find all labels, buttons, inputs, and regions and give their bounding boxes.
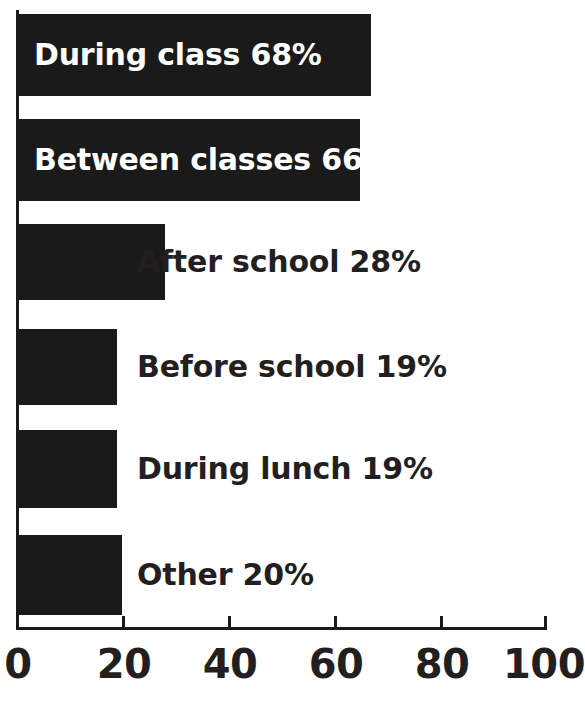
x-axis-tick-label-100: 100 (503, 644, 585, 684)
x-axis-tick-label-60: 60 (309, 644, 364, 684)
x-axis-tick-0 (16, 616, 19, 628)
bar-label-before-school: Before school 19% (137, 352, 447, 382)
x-axis-tick-label-20: 20 (97, 644, 152, 684)
bar-label-during-class: During class 68% (19, 40, 322, 70)
bar-label-after-school: After school 28% (137, 247, 421, 277)
bar-before-school (19, 329, 117, 405)
bar-label-other: Other 20% (137, 560, 314, 590)
x-axis-tick-80 (440, 616, 443, 628)
x-axis-tick-100 (544, 616, 547, 628)
plot-area: During class 68% Between classes 66% Aft… (0, 0, 570, 630)
bar-during-lunch (19, 430, 117, 508)
x-axis-tick-20 (122, 616, 125, 628)
bar-label-during-lunch: During lunch 19% (137, 454, 433, 484)
x-axis-tick-label-0: 0 (4, 644, 31, 684)
x-axis-tick-label-40: 40 (203, 644, 258, 684)
x-axis-tick-60 (334, 616, 337, 628)
bar-other (19, 535, 122, 615)
y-axis-line (16, 10, 19, 630)
x-axis-tick-label-80: 80 (415, 644, 470, 684)
x-axis-line (16, 627, 547, 630)
x-axis-tick-40 (228, 616, 231, 628)
bar-between-classes: Between classes 66% (19, 119, 360, 201)
bar-during-class: During class 68% (19, 14, 371, 96)
bar-label-between-classes: Between classes 66% (19, 145, 392, 175)
